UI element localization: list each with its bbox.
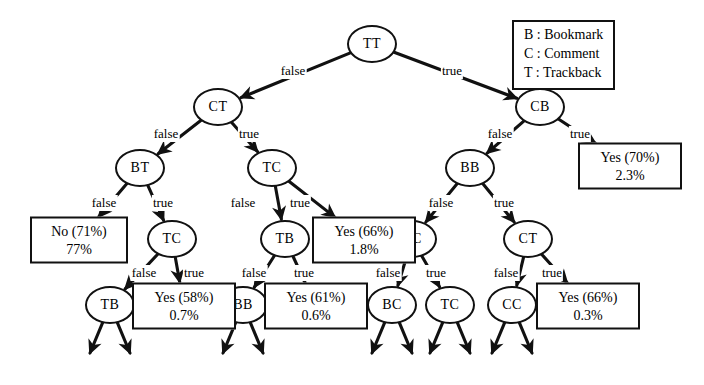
leaf-prediction: No (71%): [40, 223, 118, 241]
edge-label-tc_2-true: true: [183, 265, 205, 281]
edge-label-ct-true: true: [238, 126, 260, 142]
node-label: TB: [101, 297, 120, 313]
edge-label-tc_1-true: true: [289, 195, 311, 211]
dangling-edge-tc_3-true: [457, 322, 470, 353]
tree-node-ct: CT: [193, 88, 243, 126]
node-label: TC: [441, 297, 460, 313]
legend-entry-bookmark: B : Bookmark: [524, 26, 603, 45]
node-label: CC: [502, 297, 522, 313]
tree-node-bb_1: BB: [445, 149, 495, 187]
tree-leaf-yes-58: Yes (58%)0.7%: [132, 283, 236, 330]
tree-edge-tc_1-false: [275, 186, 281, 219]
tree-node-tt: TT: [347, 25, 397, 63]
tree-node-tc_1: TC: [247, 149, 297, 187]
node-label: CT: [519, 231, 538, 247]
tree-node-bt: BT: [115, 149, 165, 187]
edge-label-cc_1-false: false: [375, 265, 402, 281]
edge-label-cc_1-true: true: [425, 265, 447, 281]
tree-node-cc_2: CC: [487, 286, 537, 324]
tree-node-tc_2: TC: [147, 220, 197, 258]
node-label: BB: [233, 297, 253, 313]
dangling-edge-tc_3-false: [430, 322, 443, 353]
dangling-edge-bc-false: [372, 322, 385, 353]
leaf-prediction: Yes (58%): [142, 289, 226, 307]
legend-entry-comment: C : Comment: [524, 45, 603, 64]
dangling-edge-bb_2-true: [250, 322, 263, 353]
tree-node-tc_3: TC: [425, 286, 475, 324]
edge-label-bb_1-false: false: [428, 195, 455, 211]
leaf-prediction: Yes (70%): [588, 149, 672, 167]
tree-node-ct_2: CT: [503, 220, 553, 258]
legend-entry-trackback: T : Trackback: [524, 64, 603, 83]
leaf-support: 1.8%: [322, 240, 406, 258]
node-label: CB: [530, 99, 550, 115]
leaf-prediction: Yes (66%): [546, 289, 630, 307]
tree-leaf-yes-66a: Yes (66%)1.8%: [312, 217, 416, 264]
edge-label-bt-false: false: [91, 195, 118, 211]
leaf-support: 0.7%: [142, 306, 226, 324]
leaf-prediction: Yes (61%): [274, 289, 358, 307]
legend-box: B : Bookmark C : Comment T : Trackback: [512, 20, 615, 90]
tree-node-cb: CB: [515, 88, 565, 126]
dangling-edge-cc_2-true: [519, 322, 532, 353]
dangling-edge-tb_2-false: [90, 322, 103, 353]
node-label: CT: [209, 99, 228, 115]
leaf-support: 0.3%: [546, 306, 630, 324]
node-label: TT: [363, 36, 381, 52]
node-label: BB: [460, 160, 480, 176]
tree-node-tb_1: TB: [260, 220, 310, 258]
tree-node-tb_2: TB: [85, 286, 135, 324]
edge-label-tc_1-false: false: [230, 195, 257, 211]
edge-label-ct_2-true: true: [541, 265, 563, 281]
leaf-support: 0.6%: [274, 306, 358, 324]
tree-leaf-yes-70: Yes (70%)2.3%: [578, 143, 682, 190]
tree-leaf-no-71: No (71%)77%: [30, 217, 128, 264]
tree-edge-tc_2-true: [175, 257, 180, 282]
edge-label-tb_1-true: true: [293, 265, 315, 281]
leaf-support: 2.3%: [588, 166, 672, 184]
node-label: BC: [382, 297, 402, 313]
edge-label-bb_1-true: true: [493, 195, 515, 211]
edge-label-ct-false: false: [153, 126, 180, 142]
leaf-prediction: Yes (66%): [322, 223, 406, 241]
tree-leaf-yes-61: Yes (61%)0.6%: [264, 283, 368, 330]
decision-tree-diagram: TTCTCBBTTCBBTCTBCCCTTBBBBCTCCC No (71%)7…: [0, 0, 704, 385]
edge-label-tt-false: false: [280, 63, 307, 79]
edge-label-bt-true: true: [152, 195, 174, 211]
node-label: TC: [263, 160, 282, 176]
edge-label-cb-false: false: [487, 126, 514, 142]
dangling-edge-bc-true: [399, 322, 412, 353]
edge-label-ct_2-false: false: [493, 265, 520, 281]
edge-label-cb-true: true: [569, 126, 591, 142]
leaf-support: 77%: [40, 240, 118, 258]
node-label: TC: [163, 231, 182, 247]
edge-label-tt-true: true: [441, 63, 463, 79]
dangling-edge-tb_2-true: [117, 322, 130, 353]
edge-label-tc_2-false: false: [131, 265, 158, 281]
tree-node-bc: BC: [367, 286, 417, 324]
edge-label-tb_1-false: false: [241, 265, 268, 281]
tree-leaf-yes-66b: Yes (66%)0.3%: [536, 283, 640, 330]
node-label: TB: [276, 231, 295, 247]
node-label: BT: [131, 160, 150, 176]
dangling-edge-cc_2-false: [492, 322, 505, 353]
